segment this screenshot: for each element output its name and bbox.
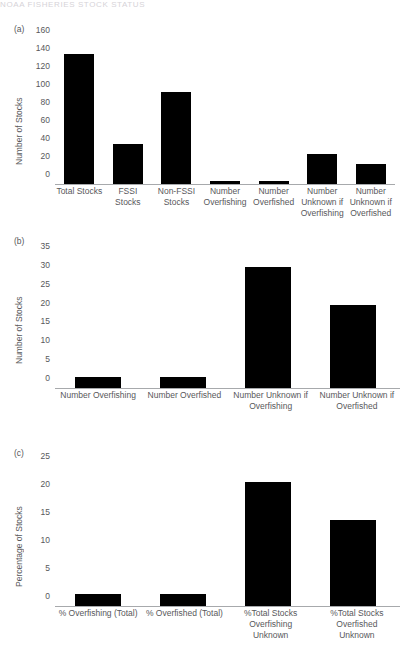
bar-cell	[346, 40, 395, 184]
x-tick-label: Number Unknown ifOverfished	[314, 390, 400, 412]
bar	[113, 144, 143, 184]
bar	[307, 154, 337, 184]
chart-panel-c: (c) Percentage of Stocks 0510152025 % Ov…	[0, 442, 405, 662]
bar-series-c	[55, 466, 395, 606]
bar-cell	[225, 256, 310, 388]
chart-panel-b: (b) Number of Stocks 05101520253035 Numb…	[0, 230, 405, 442]
plot-area-a: 020406080100120140160	[55, 40, 395, 184]
panel-label-a: (a)	[14, 24, 24, 34]
y-tick-label: 20	[41, 151, 50, 161]
y-tick-label: 0	[45, 169, 50, 179]
bar-cell	[104, 40, 153, 184]
x-tick-label: Number Unknown ifOverfishing	[228, 390, 314, 412]
bar-cell	[152, 40, 201, 184]
y-tick-label: 160	[36, 25, 50, 35]
panel-label-c: (c)	[14, 448, 24, 458]
bar-cell	[310, 466, 395, 606]
plot-area-c: 0510152025	[55, 466, 395, 606]
x-tick-label: Total Stocks	[55, 186, 104, 219]
bar	[161, 92, 191, 184]
y-axis-label-a: Number of Stocks	[14, 76, 24, 186]
bar-cell	[140, 256, 225, 388]
y-tick-label: 40	[41, 133, 50, 143]
x-tick-label: %Total StocksOverfishingUnknown	[228, 608, 314, 641]
y-axis-label-c: Percentage of Stocks	[14, 482, 24, 612]
y-tick-label: 25	[41, 279, 50, 289]
chart-panel-a: (a) Number of Stocks 0204060801001201401…	[0, 18, 405, 230]
bar-cell	[298, 40, 347, 184]
bar-cell	[55, 256, 140, 388]
y-tick-label: 0	[45, 373, 50, 383]
bar	[330, 305, 376, 388]
bar	[75, 377, 121, 388]
x-axis-labels-c: % Overfishing (Total)% Overfished (Total…	[55, 608, 400, 641]
y-tick-label: 140	[36, 43, 50, 53]
y-tick-label: 5	[45, 354, 50, 364]
y-tick-label: 100	[36, 79, 50, 89]
x-tick-label: %Total StocksOverfishedUnknown	[314, 608, 400, 641]
y-tick-label: 10	[41, 335, 50, 345]
bar-cell	[249, 40, 298, 184]
bar	[160, 594, 206, 606]
bar	[75, 594, 121, 606]
y-tick-label: 80	[41, 97, 50, 107]
y-tick-label: 60	[41, 115, 50, 125]
bar	[245, 482, 291, 606]
bar-cell	[201, 40, 250, 184]
x-axis-line-c	[55, 606, 400, 607]
x-axis-labels-a: Total StocksFSSI StocksNon-FSSIStocksNum…	[55, 186, 395, 219]
x-axis-line-b	[55, 388, 400, 389]
bar-series-b	[55, 256, 395, 388]
x-axis-labels-b: Number OverfishingNumber OverfishedNumbe…	[55, 390, 400, 412]
bar-series-a	[55, 40, 395, 184]
y-tick-label: 20	[41, 479, 50, 489]
x-tick-label: FSSI Stocks	[104, 186, 153, 219]
figure-page: NOAA FISHERIES STOCK STATUS (a) Number o…	[0, 0, 405, 662]
bar-cell	[55, 466, 140, 606]
y-tick-label: 15	[41, 316, 50, 326]
y-tick-label: 30	[41, 260, 50, 270]
running-head: NOAA FISHERIES STOCK STATUS	[0, 0, 405, 10]
bar-cell	[310, 256, 395, 388]
y-tick-label: 10	[41, 535, 50, 545]
y-axis-label-b: Number of Stocks	[14, 272, 24, 388]
y-tick-label: 120	[36, 61, 50, 71]
x-tick-label: Number Overfishing	[55, 390, 141, 412]
x-tick-label: NumberUnknown ifOverfishing	[298, 186, 347, 219]
y-tick-label: 0	[45, 591, 50, 601]
bar	[245, 267, 291, 388]
y-tick-label: 5	[45, 563, 50, 573]
x-tick-label: NumberOverfishing	[201, 186, 250, 219]
plot-area-b: 05101520253035	[55, 256, 395, 388]
bar-cell	[225, 466, 310, 606]
bar	[356, 164, 386, 184]
bar-cell	[140, 466, 225, 606]
bar	[64, 54, 94, 185]
y-tick-label: 15	[41, 507, 50, 517]
panel-label-b: (b)	[14, 236, 24, 246]
bar	[160, 377, 206, 388]
y-tick-label: 35	[41, 241, 50, 251]
x-axis-line-a	[55, 184, 395, 185]
y-tick-label: 20	[41, 298, 50, 308]
x-tick-label: Non-FSSIStocks	[152, 186, 201, 219]
y-tick-label: 25	[41, 451, 50, 461]
x-tick-label: NumberOverfished	[249, 186, 298, 219]
x-tick-label: Number Overfished	[141, 390, 227, 412]
bar	[330, 520, 376, 606]
x-tick-label: % Overfishing (Total)	[55, 608, 141, 641]
bar-cell	[55, 40, 104, 184]
x-tick-label: % Overfished (Total)	[141, 608, 227, 641]
x-tick-label: NumberUnknown ifOverfished	[346, 186, 395, 219]
